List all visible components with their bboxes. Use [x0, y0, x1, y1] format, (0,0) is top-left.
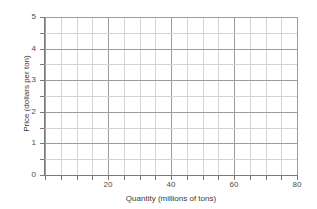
y-tick-mark: [40, 80, 45, 81]
gridline-horizontal-minor: [45, 159, 297, 160]
x-tick-mark: [203, 176, 204, 180]
gridline-horizontal-minor: [45, 64, 297, 65]
gridline-horizontal-minor: [45, 96, 297, 97]
y-tick-mark: [40, 64, 45, 65]
plot-area: [45, 17, 297, 175]
gridline-horizontal-major: [45, 17, 297, 18]
x-tick-mark: [140, 176, 141, 180]
x-tick-mark: [92, 176, 93, 180]
x-tick-mark: [124, 176, 125, 180]
x-tick-mark: [266, 176, 267, 180]
gridline-horizontal-minor: [45, 128, 297, 129]
y-tick-mark: [40, 49, 45, 50]
gridline-horizontal-minor: [45, 33, 297, 34]
x-tick-mark: [155, 176, 156, 180]
y-axis-title: Price (dollars per ton): [22, 19, 31, 169]
x-tick-mark: [218, 176, 219, 180]
x-tick-mark: [281, 176, 282, 180]
x-axis-title: Quantity (millions of tons): [45, 194, 297, 203]
x-tick-label: 80: [282, 181, 312, 189]
x-tick-mark: [187, 176, 188, 180]
gridline-horizontal-major: [45, 112, 297, 113]
gridline-horizontal-major: [45, 143, 297, 144]
y-tick-mark: [40, 33, 45, 34]
gridline-horizontal-major: [45, 80, 297, 81]
x-tick-label: 20: [93, 181, 123, 189]
y-tick-mark: [40, 159, 45, 160]
x-tick-label: 60: [219, 181, 249, 189]
y-tick-mark: [40, 112, 45, 113]
x-tick-mark: [61, 176, 62, 180]
x-tick-label: 40: [156, 181, 186, 189]
y-tick-mark: [40, 96, 45, 97]
y-tick-mark: [40, 143, 45, 144]
y-tick-mark: [40, 128, 45, 129]
x-tick-mark: [45, 176, 46, 180]
y-tick-mark: [40, 17, 45, 18]
chart-figure: 20406080543210 Quantity (millions of ton…: [0, 0, 317, 209]
gridlines: [45, 17, 297, 175]
gridline-vertical-major: [297, 17, 298, 175]
y-tick-mark: [40, 175, 45, 176]
y-tick-label: 0: [16, 171, 36, 179]
x-tick-mark: [250, 176, 251, 180]
x-tick-mark: [77, 176, 78, 180]
gridline-horizontal-major: [45, 49, 297, 50]
